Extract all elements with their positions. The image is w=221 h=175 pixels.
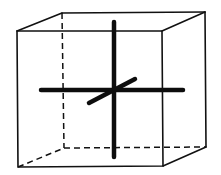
top-left-depth-edge <box>17 13 62 31</box>
back-top-edge <box>62 12 205 13</box>
back-bottom-edge <box>64 147 206 148</box>
diagram-canvas <box>0 0 221 175</box>
back-right-vertical-edge <box>205 12 206 147</box>
bottom-right-depth-edge <box>163 147 206 166</box>
top-right-depth-edge <box>162 12 205 31</box>
front-face-outline <box>17 31 163 167</box>
cube-diagram <box>0 0 221 175</box>
bottom-left-depth-edge <box>18 148 64 167</box>
front-face <box>17 31 163 167</box>
back-left-vertical-edge <box>62 13 64 148</box>
